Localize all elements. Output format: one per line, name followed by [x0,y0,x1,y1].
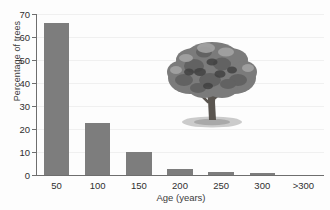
x-tick-label: >300 [293,180,314,191]
y-tick-label: 60 [19,32,30,43]
x-tick-label: 250 [213,180,229,191]
x-tick-label: 300 [254,180,270,191]
y-tick-mark [32,14,36,15]
y-tick-mark [32,175,36,176]
bar [85,123,111,175]
y-tick-label: 20 [19,124,30,135]
x-tick-label: 200 [172,180,188,191]
y-tick-label: 0 [25,170,30,181]
x-tick-label: 50 [51,180,62,191]
y-tick-label: 70 [19,9,30,20]
x-tick-label: 150 [131,180,147,191]
y-tick-mark [32,83,36,84]
x-axis-title: Age (years) [36,192,326,203]
tree-illustration [164,36,260,132]
y-tick-mark [32,60,36,61]
y-tick-mark [32,37,36,38]
y-tick-label: 30 [19,101,30,112]
bar [44,23,70,175]
bar [167,169,193,175]
bar [126,152,152,175]
plot-area: 010203040506070 50100150200250300>300 [36,14,324,176]
bar [208,172,234,175]
y-tick-label: 40 [19,78,30,89]
x-tick-label: 100 [90,180,106,191]
gridline [37,14,324,15]
gridline [37,152,324,153]
y-tick-mark [32,129,36,130]
bar [250,173,276,175]
bar-chart-figure: Percentage of trees 010203040506070 5010… [0,0,330,210]
x-axis-line [36,175,324,176]
y-tick-mark [32,106,36,107]
y-tick-mark [32,152,36,153]
y-tick-label: 50 [19,55,30,66]
y-tick-label: 10 [19,147,30,158]
